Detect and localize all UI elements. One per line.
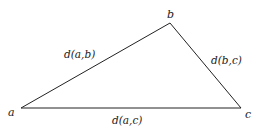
edge-label-ac: d(a,c) (112, 114, 142, 126)
vertex-label-b: b (167, 8, 174, 21)
vertex-label-c: c (245, 108, 251, 121)
edge-ab (21, 23, 170, 108)
vertex-label-a: a (8, 106, 15, 119)
edge-label-ab: d(a,b) (64, 48, 95, 60)
edge-label-bc: d(b,c) (211, 54, 242, 66)
triangle-diagram: a b c d(a,b) d(b,c) d(a,c) (0, 0, 259, 134)
